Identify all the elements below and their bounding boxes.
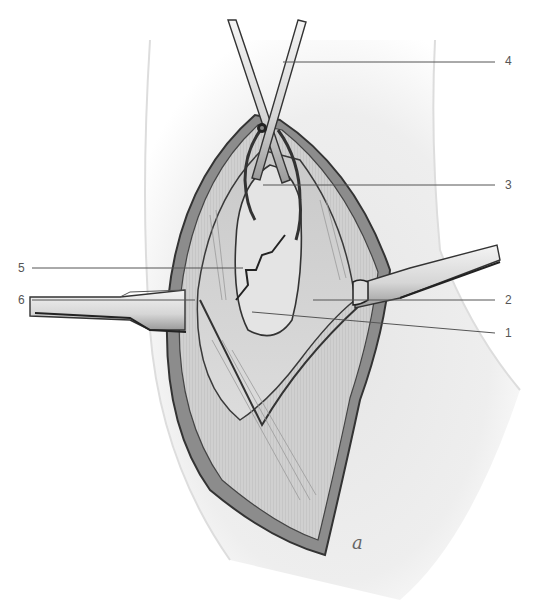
artist-signature: a [352,532,363,553]
callout-2: 2 [505,294,512,306]
callout-3: 3 [505,179,512,191]
callout-4: 4 [505,55,512,67]
callout-6: 6 [18,294,25,306]
surgical-illustration [0,0,546,604]
retractor-left [30,290,186,332]
callout-1: 1 [505,327,512,339]
callout-5: 5 [18,262,25,274]
